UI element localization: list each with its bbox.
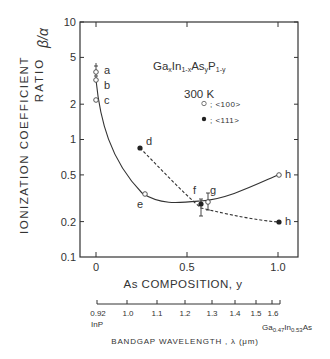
- svg-text:1.3: 1.3: [206, 309, 218, 318]
- point-g: [206, 200, 211, 205]
- svg-text:c: c: [104, 94, 110, 106]
- svg-text:0.5: 0.5: [179, 261, 194, 273]
- wavelength-axis-label: BANDGAP WAVELENGTH , λ (μm): [111, 337, 258, 346]
- svg-text:0.92: 0.92: [90, 309, 106, 318]
- point-b: [94, 78, 99, 83]
- svg-text:1.2: 1.2: [179, 309, 191, 318]
- point-d: [137, 145, 142, 150]
- svg-text:2: 2: [70, 98, 76, 110]
- svg-text:d: d: [146, 135, 152, 147]
- point-e: [143, 192, 148, 197]
- svg-text:1.0: 1.0: [122, 309, 134, 318]
- svg-text:0.1: 0.1: [61, 251, 76, 263]
- svg-text:β/α: β/α: [35, 27, 51, 49]
- point-f: [198, 201, 203, 206]
- inp-label: InP: [91, 320, 103, 329]
- svg-text:e: e: [137, 198, 143, 210]
- svg-text:h: h: [285, 168, 291, 180]
- svg-text:g: g: [210, 184, 216, 196]
- point-h-100: [277, 173, 282, 178]
- y-ticks: [80, 22, 298, 222]
- svg-text:IONIZATION COEFFICIENT: IONIZATION COEFFICIENT: [18, 56, 30, 234]
- svg-text:10: 10: [64, 16, 76, 28]
- y-tick-labels: 10 5 2 1 0.5 0.2 0.1: [61, 16, 76, 263]
- svg-text:; <111>: ; <111>: [210, 116, 239, 125]
- x-tick-labels: 0 0.5 1.0: [93, 261, 286, 273]
- svg-text:0.5: 0.5: [61, 169, 76, 181]
- point-h-111: [276, 219, 281, 224]
- svg-text:5: 5: [70, 51, 76, 63]
- material-formula: GaxIn1-xAsyP1-y: [153, 60, 226, 74]
- temperature-label: 300 K: [184, 88, 214, 100]
- filled-circle-icon: [202, 117, 206, 121]
- series-111-curve: [140, 148, 278, 222]
- svg-text:f: f: [193, 184, 197, 196]
- x-ticks: [96, 22, 278, 257]
- plot-frame: [80, 22, 298, 257]
- point-c: [94, 98, 99, 103]
- svg-text:1.1: 1.1: [151, 309, 163, 318]
- svg-text:1: 1: [70, 133, 76, 145]
- svg-text:1.0: 1.0: [270, 261, 285, 273]
- wavelength-axis: [97, 300, 280, 304]
- svg-text:a: a: [104, 64, 111, 76]
- svg-text:1.5: 1.5: [250, 309, 262, 318]
- x-axis-label: As COMPOSITION, y: [123, 278, 242, 290]
- open-circle-icon: [202, 101, 206, 105]
- gainas-label: Ga0.47In0.53As: [262, 323, 312, 333]
- legend: ; <100> ; <111>: [202, 100, 241, 125]
- svg-text:b: b: [104, 79, 110, 91]
- svg-text:RATIO: RATIO: [33, 58, 45, 102]
- svg-text:h: h: [285, 215, 291, 227]
- chart-svg: 10 5 2 1 0.5 0.2 0.1 0 0.5 1.0 IONIZATIO…: [0, 0, 330, 359]
- svg-text:1.4: 1.4: [229, 309, 241, 318]
- point-a: [94, 70, 99, 75]
- wavelength-tick-labels: 0.92 1.0 1.1 1.2 1.3 1.4 1.5 1.6: [90, 309, 279, 318]
- svg-text:; <100>: ; <100>: [210, 100, 241, 109]
- y-axis-label: IONIZATION COEFFICIENT RATIO β/α: [18, 27, 51, 234]
- svg-text:0: 0: [93, 261, 99, 273]
- svg-text:1.6: 1.6: [267, 309, 279, 318]
- svg-text:0.2: 0.2: [61, 216, 76, 228]
